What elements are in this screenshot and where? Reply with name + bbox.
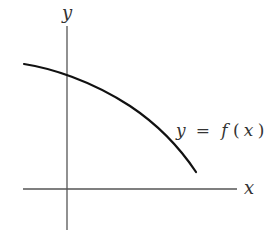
curve-label-open-paren: ( <box>233 120 240 140</box>
x-axis-label: x <box>244 177 254 198</box>
curve-label-argument: x <box>244 120 254 140</box>
function-curve <box>24 64 196 172</box>
curve-label-function: f <box>219 120 230 140</box>
curve-label-equals: = <box>196 120 210 140</box>
curve-label-lhs: y <box>175 120 186 140</box>
curve-label-close-paren: ) <box>258 120 265 140</box>
curve-label: y = f ( x ) <box>175 120 264 140</box>
function-graph: y x y = f ( x ) <box>0 0 276 230</box>
y-axis-label: y <box>61 2 73 23</box>
